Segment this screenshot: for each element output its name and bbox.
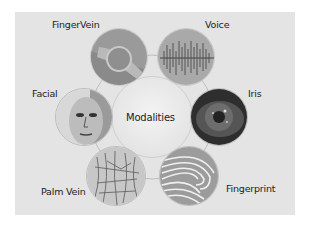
iris-icon <box>191 89 248 146</box>
finger-vein-image <box>90 28 148 86</box>
facial-image <box>55 88 113 146</box>
fingerprint-image <box>159 146 219 206</box>
fingerprint-label: Fingerprint <box>226 183 275 194</box>
voice-label: Voice <box>205 19 229 30</box>
facial-label: Facial <box>32 88 58 99</box>
finger-vein-icon <box>91 29 148 86</box>
palm-vein-label: Palm Vein <box>41 186 86 197</box>
voice-waveform-icon <box>158 29 215 86</box>
iris-image <box>190 88 248 146</box>
voice-image <box>157 28 215 86</box>
fingerprint-icon <box>160 147 219 206</box>
center-label: Modalities <box>126 112 175 123</box>
finger-vein-label: FingerVein <box>52 19 99 30</box>
palm-vein-icon <box>87 147 146 206</box>
face-icon <box>56 89 113 146</box>
iris-label: Iris <box>248 88 262 99</box>
palm-vein-image <box>86 146 146 206</box>
